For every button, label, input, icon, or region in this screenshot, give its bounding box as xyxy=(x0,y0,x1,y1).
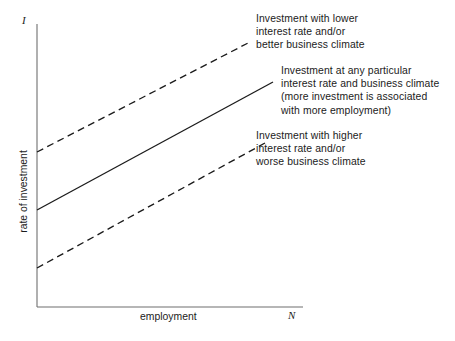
annotation-any-particular-rate: Investment at any particular interest ra… xyxy=(281,64,439,117)
annotation-higher-interest-rate: Investment with higher interest rate and… xyxy=(256,129,366,169)
annotation-upper-line-3: better business climate xyxy=(256,38,365,51)
annotation-lower-interest-rate: Investment with lower interest rate and/… xyxy=(256,12,365,52)
annotation-upper-line-1: Investment with lower xyxy=(256,12,365,25)
annotation-middle-line-2: interest rate and business climate xyxy=(281,77,439,90)
annotation-lower-line-2: interest rate and/or xyxy=(256,142,366,155)
x-axis-symbol: N xyxy=(288,309,295,321)
investment-line-lower-dashed xyxy=(37,143,265,268)
annotation-middle-line-3: (more investment is associated xyxy=(281,90,439,103)
y-axis-symbol: I xyxy=(22,14,26,26)
y-axis-label: rate of investment xyxy=(18,132,29,252)
annotation-upper-line-2: interest rate and/or xyxy=(256,25,365,38)
investment-line-upper-dashed xyxy=(37,42,250,152)
annotation-lower-line-3: worse business climate xyxy=(256,155,366,168)
x-axis-label: employment xyxy=(140,311,197,322)
investment-line-baseline-solid xyxy=(37,82,273,210)
annotation-lower-line-1: Investment with higher xyxy=(256,129,366,142)
annotation-middle-line-4: with more employment) xyxy=(281,104,439,117)
chart-canvas xyxy=(0,0,455,341)
annotation-middle-line-1: Investment at any particular xyxy=(281,64,439,77)
investment-employment-chart: I N rate of investment employment Invest… xyxy=(0,0,455,341)
